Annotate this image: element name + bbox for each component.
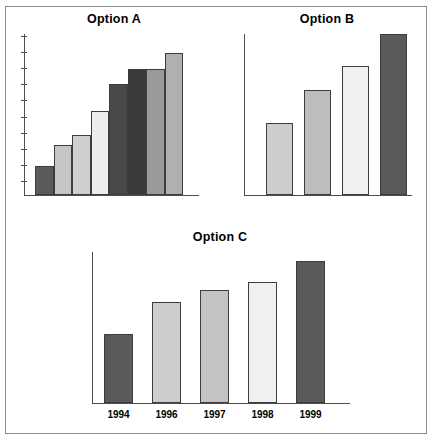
figure-canvas: Option A Option B Option C 1994199619971… <box>0 0 434 442</box>
y-axis-tick <box>21 149 27 150</box>
y-axis-option-b <box>244 34 245 196</box>
bar <box>128 69 147 195</box>
bar <box>342 66 369 195</box>
x-axis-label: 1996 <box>146 409 187 420</box>
y-axis-option-c <box>92 252 93 404</box>
bar <box>380 34 407 195</box>
bar <box>35 166 54 195</box>
plot-area-option-a <box>24 34 199 196</box>
x-axis-option-c <box>92 403 350 404</box>
x-axis-option-b <box>244 195 412 196</box>
plot-area-option-b <box>244 34 412 196</box>
plot-area-option-c: 19941996199719981999 <box>92 252 350 404</box>
x-axis-option-a <box>24 195 199 196</box>
x-axis-label: 1999 <box>290 409 331 420</box>
y-axis-tick <box>21 84 27 85</box>
y-axis-tick <box>21 133 27 134</box>
bar <box>91 111 110 195</box>
bar <box>152 302 181 403</box>
y-axis-tick <box>21 100 27 101</box>
y-axis-tick <box>21 68 27 69</box>
x-axis-label: 1997 <box>194 409 235 420</box>
bar <box>304 90 331 195</box>
bar <box>72 135 91 195</box>
y-axis-tick <box>21 181 27 182</box>
bar <box>165 53 184 195</box>
bar <box>200 290 229 403</box>
bar <box>146 69 165 195</box>
bar <box>248 282 277 403</box>
y-axis-tick <box>21 36 27 37</box>
bar <box>296 261 325 403</box>
bar <box>54 145 73 195</box>
y-axis-tick <box>21 165 27 166</box>
bar <box>104 334 133 403</box>
bar <box>109 84 128 195</box>
chart-title-option-a: Option A <box>14 12 214 26</box>
chart-panel-option-b: Option B <box>232 12 422 207</box>
y-axis-tick <box>21 117 27 118</box>
chart-title-option-b: Option B <box>232 12 422 26</box>
chart-panel-option-c: Option C 19941996199719981999 <box>80 230 360 430</box>
y-axis-option-a <box>24 34 25 196</box>
bar <box>266 123 293 195</box>
x-axis-label: 1994 <box>98 409 139 420</box>
y-axis-tick <box>21 52 27 53</box>
x-axis-label: 1998 <box>242 409 283 420</box>
chart-panel-option-a: Option A <box>14 12 214 207</box>
chart-title-option-c: Option C <box>80 230 360 244</box>
